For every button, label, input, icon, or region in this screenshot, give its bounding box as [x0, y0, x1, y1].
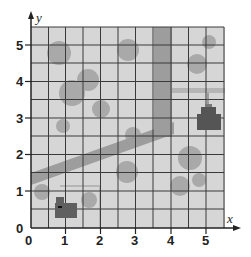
tree-icon [187, 54, 207, 74]
x-axis-label: x [226, 211, 233, 226]
x-axis-arrow-icon [233, 225, 241, 231]
tree-icon [34, 184, 50, 200]
x-tick-label: 4 [167, 233, 175, 248]
y-tick-label: 2 [16, 147, 23, 162]
coordinate-grid-map: y x 5 4 3 2 1 0 0 1 2 3 4 5 [0, 0, 251, 257]
tree-icon [202, 35, 216, 49]
y-tick-label: 3 [16, 111, 23, 126]
tree-icon [192, 173, 206, 187]
tree-icon [56, 119, 70, 133]
y-tick-label: 1 [16, 184, 23, 199]
y-tick-label: 0 [16, 221, 23, 236]
y-tick-label: 5 [16, 38, 23, 53]
tree-icon [178, 146, 202, 170]
y-axis-label: y [34, 10, 42, 25]
y-tick-label: 4 [16, 74, 24, 89]
x-tick-label: 0 [25, 233, 32, 248]
y-axis-arrow-icon [28, 11, 34, 19]
side-path [172, 88, 225, 93]
x-tick-label: 1 [61, 233, 68, 248]
y-tick-marks [25, 45, 31, 191]
x-tick-label: 2 [96, 233, 103, 248]
x-tick-label: 3 [131, 233, 138, 248]
tree-icon [170, 176, 190, 196]
x-tick-label: 5 [202, 233, 209, 248]
tree-icon [59, 80, 85, 106]
